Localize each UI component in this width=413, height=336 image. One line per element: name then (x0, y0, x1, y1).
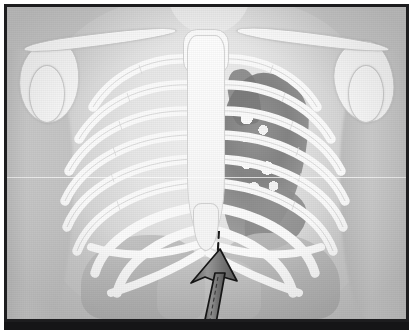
figure-frame: Subxiphoid pericardiocentesis needle ins… (0, 0, 413, 336)
needle-graphic (175, 243, 255, 319)
pericardiocentesis-needle[interactable] (175, 243, 255, 319)
illustration-canvas (7, 7, 406, 319)
frame-bottom-band (4, 322, 409, 330)
needle-shaft (203, 273, 225, 319)
illustration-border (4, 4, 409, 322)
